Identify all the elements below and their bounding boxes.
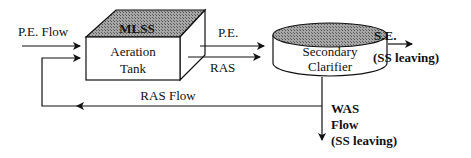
ras-flow-label: RAS Flow [140,88,196,103]
ras-label: RAS [210,60,235,75]
was-ss-leaving-label: (SS leaving) [331,133,397,148]
secondary-label: Secondary [303,44,358,59]
se-ss-leaving-label: (SS leaving) [373,50,439,65]
clarifier-label: Clarifier [308,59,353,74]
pe-label: P.E. [218,25,238,40]
secondary-clarifier: Secondary Clarifier [273,23,387,76]
was-label: WAS [331,101,359,116]
mlss-label: MLSS [119,21,154,36]
aeration-label: Aeration [110,44,156,59]
was-flow-label: Flow [331,117,359,132]
se-label: S.E. [374,28,396,43]
aeration-tank: MLSS Aeration Tank [86,10,205,80]
activated-sludge-diagram: MLSS Aeration Tank P.E. Flow RAS Flow P.… [0,0,471,158]
tank-label: Tank [120,61,146,76]
pe-flow-label: P.E. Flow [18,24,69,39]
